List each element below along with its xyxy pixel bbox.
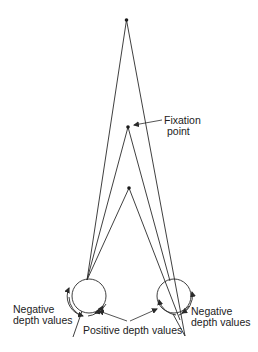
left-eye-sight-lines [87, 20, 129, 280]
negative-right-line-2: depth values [191, 317, 251, 328]
near-point [127, 186, 131, 190]
positive-depth-arrows [99, 309, 157, 321]
diagram-canvas [0, 0, 258, 352]
fixation-point-label: Fixation point [164, 115, 201, 137]
negative-depth-right-label: Negative depth values [191, 306, 251, 328]
binocular-depth-diagram: Fixation point Negative depth values Neg… [0, 0, 258, 352]
positive-depth-label: Positive depth values [83, 325, 182, 336]
far-point [125, 18, 129, 22]
fixation-label-line-2: point [164, 126, 201, 137]
fixation-point [126, 125, 130, 129]
fixation-arrow [134, 120, 162, 125]
right-negative-arc-2 [182, 306, 189, 313]
right-eye-sight-lines [127, 20, 186, 336]
negative-depth-left-label: Negative depth values [13, 304, 73, 326]
left-positive-arc [88, 306, 103, 316]
negative-left-line-2: depth values [13, 315, 73, 326]
